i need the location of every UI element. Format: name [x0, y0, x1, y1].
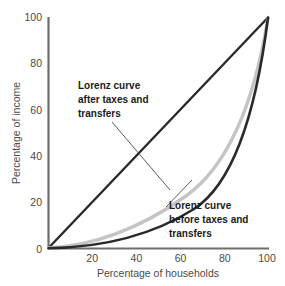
y-tick-label-0: 0 [36, 243, 42, 255]
annotation-after-line-3: transfers [78, 108, 121, 119]
x-tick-label-80: 80 [219, 252, 231, 264]
x-tick-label-60: 60 [175, 252, 187, 264]
lorenz-curve-figure: 100 80 60 40 20 0 20 40 60 80 100 Percen… [0, 0, 285, 286]
y-tick-label-20: 20 [30, 196, 42, 208]
annotation-after-line-1: Lorenz curve [78, 80, 141, 91]
y-tick-label-80: 80 [30, 57, 42, 69]
y-tick-label-60: 60 [30, 104, 42, 116]
annotation-before-line-3: transfers [169, 228, 212, 239]
chart-canvas: 100 80 60 40 20 0 20 40 60 80 100 Percen… [0, 0, 285, 286]
x-tick-label-20: 20 [86, 252, 98, 264]
x-tick-label-40: 40 [131, 252, 143, 264]
annotation-before-line-2: before taxes and [169, 214, 248, 225]
annotation-after-line-2: after taxes and [78, 94, 149, 105]
y-axis-title: Percentage of income [10, 82, 22, 184]
x-tick-label-100: 100 [258, 252, 276, 264]
annotation-before-line-1: Lorenz curve [169, 200, 232, 211]
y-tick-label-40: 40 [30, 150, 42, 162]
y-tick-label-100: 100 [24, 11, 42, 23]
x-axis-title: Percentage of households [97, 267, 219, 279]
